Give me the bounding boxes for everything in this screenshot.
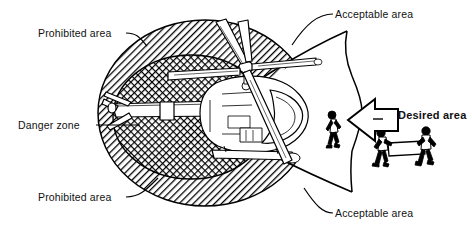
label-desired-area: Desired area	[398, 109, 466, 121]
label-prohibited-area-top: Prohibited area	[38, 27, 111, 39]
engine-cowling	[240, 128, 262, 142]
leader-acceptable-bottom	[304, 188, 333, 213]
label-prohibited-area-bottom: Prohibited area	[38, 191, 111, 203]
label-danger-zone: Danger zone	[18, 119, 80, 131]
safety-zone-diagram: Prohibited area Prohibited area Danger z…	[0, 0, 472, 237]
label-acceptable-area-top: Acceptable area	[335, 8, 413, 20]
label-acceptable-area-bottom: Acceptable area	[335, 207, 413, 219]
